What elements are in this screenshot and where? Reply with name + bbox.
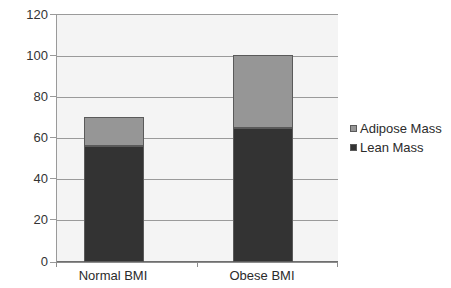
legend-label-lean-mass: Lean Mass [360,141,424,155]
y-tick-label-0: 0 [8,255,48,268]
bar-group-obese-bmi[interactable] [233,55,293,262]
plot-area [56,14,338,262]
y-tick-label-60: 60 [8,131,48,144]
bar-group-normal-bmi[interactable] [84,117,144,262]
bar-segment-adipose-obese-bmi[interactable] [233,55,293,127]
legend-swatch-lean-mass [350,144,357,151]
legend-item-adipose-mass[interactable]: Adipose Mass [350,119,449,138]
y-tick-label-120: 120 [8,8,48,21]
x-tick-mark-right [337,262,338,267]
gridline-80 [57,97,338,98]
x-tick-mark-middle [197,262,198,267]
x-tick-mark-left [56,262,57,267]
bar-segment-adipose-normal-bmi[interactable] [84,117,144,146]
legend: Adipose Mass Lean Mass [350,119,449,157]
x-category-label-normal-bmi: Normal BMI [73,268,153,283]
bar-segment-lean-normal-bmi[interactable] [84,146,144,262]
y-tick-label-100: 100 [8,49,48,62]
y-tick-label-40: 40 [8,172,48,185]
legend-label-adipose-mass: Adipose Mass [360,122,442,136]
bar-segment-lean-obese-bmi[interactable] [233,128,293,262]
y-tick-label-20: 20 [8,213,48,226]
x-category-label-obese-bmi: Obese BMI [222,268,302,283]
legend-item-lean-mass[interactable]: Lean Mass [350,138,449,157]
y-tick-label-80: 80 [8,90,48,103]
chart-container: 120 100 80 60 40 20 0 [0,0,451,288]
gridline-100 [57,56,338,57]
legend-swatch-adipose-mass [350,125,357,132]
